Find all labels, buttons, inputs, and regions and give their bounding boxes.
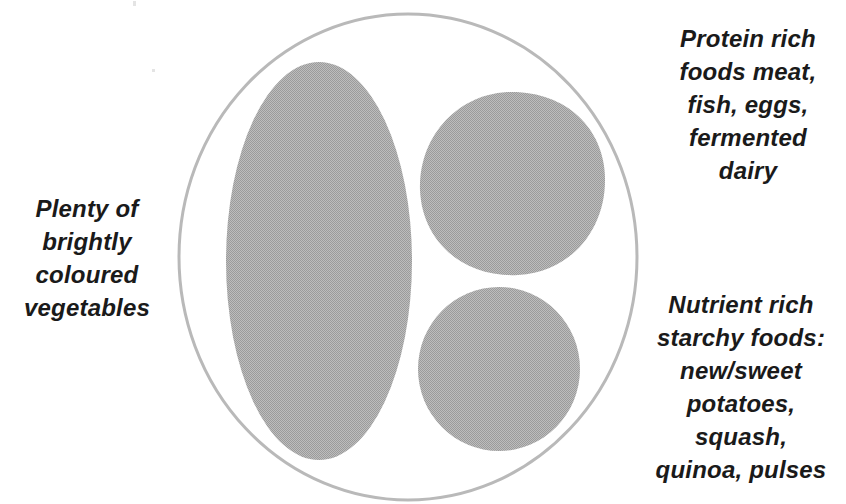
vegetables-portion bbox=[226, 62, 412, 460]
label-starchy: Nutrient rich starchy foods: new/sweet p… bbox=[636, 288, 846, 486]
protein-portion bbox=[420, 92, 605, 275]
healthy-plate-diagram: Plenty of brightly coloured vegetables P… bbox=[0, 0, 846, 504]
starchy-portion bbox=[418, 287, 580, 451]
label-protein: Protein rich foods meat, fish, eggs, fer… bbox=[652, 22, 844, 187]
label-vegetables: Plenty of brightly coloured vegetables bbox=[2, 192, 172, 324]
